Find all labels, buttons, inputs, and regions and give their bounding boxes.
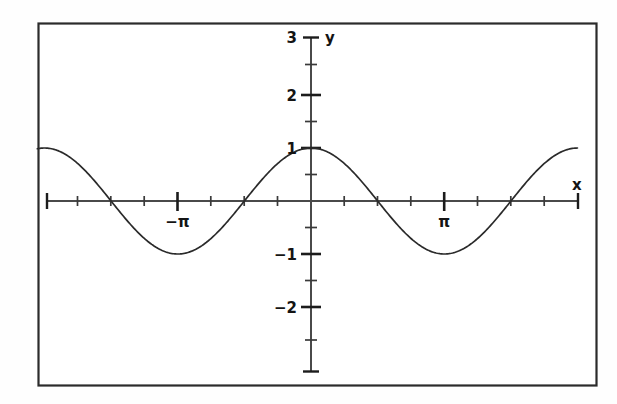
y-tick-label-minus-2: −2 xyxy=(274,299,297,317)
y-tick-label-minus-1: −1 xyxy=(274,246,297,264)
cosine-plot: 3 2 1 −1 −2 −π π y x xyxy=(0,0,617,404)
y-tick-label-1: 1 xyxy=(287,140,297,158)
y-tick-label-2: 2 xyxy=(287,87,297,105)
x-axis-label: x xyxy=(572,176,582,194)
x-tick-label-minus-pi: −π xyxy=(165,213,189,231)
y-axis-label: y xyxy=(325,29,335,47)
graph-figure: 3 2 1 −1 −2 −π π y x xyxy=(0,0,617,404)
x-tick-label-pi: π xyxy=(438,213,450,231)
y-tick-label-3: 3 xyxy=(287,29,297,47)
plot-frame xyxy=(39,24,597,386)
